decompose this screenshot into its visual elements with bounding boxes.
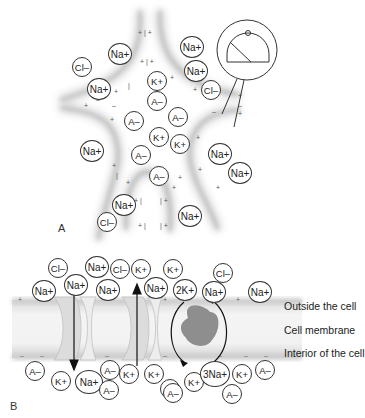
- svg-text:+: +: [216, 184, 220, 191]
- arrow-down-icon: [70, 360, 78, 370]
- ion-chloride: Cl–: [48, 258, 68, 278]
- cell-membrane-label: Cell membrane: [284, 324, 355, 336]
- svg-text:+: +: [84, 102, 88, 109]
- ion-anion: A–: [99, 380, 119, 400]
- ion-chloride: Cl–: [213, 263, 233, 283]
- ion-sodium: Na+: [208, 143, 232, 165]
- ion-anion: A–: [222, 384, 242, 404]
- ion-anion: A–: [255, 360, 275, 380]
- ion-potassium: K+: [119, 364, 139, 384]
- ion-anion: A–: [149, 166, 169, 186]
- panel-a-label: A: [58, 222, 65, 234]
- ion-potassium: K+: [131, 259, 151, 279]
- figure: + | + + | + | + + + – + – + + – + – – + …: [0, 0, 365, 418]
- svg-text:+: +: [172, 184, 176, 191]
- cell-membrane-a: [60, 10, 240, 240]
- svg-text:+: +: [112, 162, 116, 169]
- ion-anion: A–: [124, 111, 144, 131]
- svg-text:+: +: [178, 174, 182, 181]
- ion-anion: A–: [131, 145, 151, 165]
- ion-sodium: Na+: [85, 256, 109, 278]
- svg-text:+: +: [170, 74, 174, 81]
- ion-sodium: Na+: [144, 277, 168, 299]
- ion-potassium: K+: [144, 364, 164, 384]
- ion-sodium: Na+: [248, 281, 272, 303]
- ion-sodium: Na+: [178, 205, 202, 227]
- svg-text:+: +: [236, 296, 240, 303]
- ion-potassium: K+: [232, 364, 252, 384]
- ion-potassium: K+: [170, 134, 190, 154]
- ion-sodium: Na+: [32, 280, 56, 302]
- ion-anion: A–: [25, 361, 45, 381]
- ion-sodium: Na+: [112, 194, 136, 216]
- svg-text:+ | +: + | +: [138, 29, 152, 37]
- svg-text:–: –: [264, 352, 268, 359]
- ion-anion: A–: [163, 383, 183, 403]
- svg-text:–: –: [244, 352, 248, 359]
- ion-sodium: Na+: [184, 60, 208, 82]
- ion-chloride: Cl–: [110, 259, 130, 279]
- ion-sodium: Na+: [80, 140, 104, 162]
- svg-text:–: –: [112, 102, 116, 109]
- svg-text:+: +: [163, 296, 167, 303]
- ion-sodium: Na+: [87, 78, 111, 100]
- svg-text:–: –: [105, 352, 109, 359]
- svg-text:+ |: + |: [138, 222, 146, 230]
- outside-cell-label: Outside the cell: [284, 300, 356, 312]
- ion-sodium: Na+: [180, 36, 204, 58]
- ion-sodium: Na+: [96, 279, 120, 301]
- svg-text:+: +: [198, 166, 202, 173]
- arrow-up-icon: [133, 284, 141, 294]
- arrow-icon: [180, 360, 188, 367]
- svg-text:| +: | +: [160, 197, 168, 205]
- interior-cell-label: Interior of the cell: [284, 347, 365, 359]
- ion-sodium-triple: 3Na+: [200, 361, 230, 387]
- panel-b-label: B: [10, 400, 17, 412]
- ion-sodium: Na+: [64, 274, 88, 296]
- svg-text:|: |: [128, 82, 130, 90]
- svg-text:+: +: [196, 134, 200, 141]
- ion-chloride: Cl–: [201, 80, 221, 100]
- ion-anion: A–: [168, 107, 188, 127]
- ion-sodium: Na+: [202, 281, 226, 303]
- ion-potassium: K+: [163, 259, 183, 279]
- svg-text:+: +: [193, 86, 197, 93]
- ion-sodium: Na+: [108, 43, 132, 65]
- svg-text:+: +: [18, 296, 22, 303]
- svg-text:|: |: [116, 172, 118, 180]
- ion-potassium: K+: [149, 127, 169, 147]
- ion-potassium: K+: [51, 371, 71, 391]
- ion-sodium: Na+: [228, 162, 252, 184]
- ion-chloride: Cl–: [97, 212, 117, 232]
- svg-text:–: –: [20, 352, 24, 359]
- svg-text:–: –: [40, 352, 44, 359]
- svg-text:–: –: [163, 352, 167, 359]
- svg-text:+: +: [110, 116, 114, 123]
- svg-text:+: +: [238, 110, 242, 117]
- svg-text:+ | +: + | +: [140, 58, 154, 66]
- ion-anion: A–: [100, 360, 120, 380]
- svg-text:+: +: [114, 88, 118, 95]
- ion-anion: A–: [147, 91, 167, 111]
- ion-potassium-pair: 2K+: [173, 279, 197, 301]
- ion-chloride: Cl–: [72, 57, 92, 77]
- svg-text:–: –: [212, 108, 216, 115]
- svg-text:| +: | +: [160, 222, 168, 230]
- svg-text:+: +: [126, 179, 130, 186]
- ion-potassium: K+: [147, 71, 167, 91]
